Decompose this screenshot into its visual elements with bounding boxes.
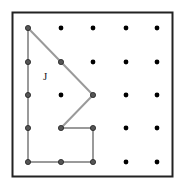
grid-peg bbox=[59, 93, 64, 98]
geoboard: J bbox=[0, 0, 181, 184]
grid-peg bbox=[124, 93, 129, 98]
polygon-label: J bbox=[43, 70, 48, 82]
grid-peg bbox=[90, 159, 95, 164]
grid-peg bbox=[124, 26, 129, 31]
grid-peg bbox=[90, 92, 95, 97]
grid-peg bbox=[155, 126, 160, 131]
grid-peg bbox=[59, 26, 64, 31]
grid-peg bbox=[124, 60, 129, 65]
grid-peg bbox=[25, 125, 30, 130]
grid-peg bbox=[155, 160, 160, 165]
grid-peg bbox=[90, 125, 95, 130]
grid-peg bbox=[58, 159, 63, 164]
grid-peg bbox=[124, 126, 129, 131]
grid-peg bbox=[124, 160, 129, 165]
grid-peg bbox=[91, 26, 96, 31]
grid-peg bbox=[155, 60, 160, 65]
grid-peg bbox=[25, 92, 30, 97]
grid-peg bbox=[91, 60, 96, 65]
grid-peg bbox=[25, 25, 30, 30]
grid-peg bbox=[25, 159, 30, 164]
grid-peg bbox=[155, 26, 160, 31]
grid-peg bbox=[58, 59, 63, 64]
grid-peg bbox=[25, 59, 30, 64]
grid-peg bbox=[58, 125, 63, 130]
grid-peg bbox=[155, 93, 160, 98]
